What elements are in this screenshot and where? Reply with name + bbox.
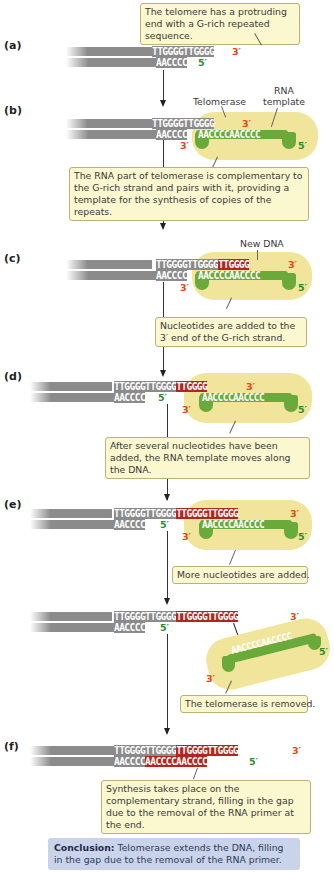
rna-right-foot-d — [284, 395, 298, 412]
dna-bottom-seq-b: AACCCC — [156, 130, 187, 139]
five-prime-d: 5′ — [158, 393, 167, 402]
rna-five-prime-removed: 5′ — [319, 647, 328, 656]
rna-right-foot-c — [282, 273, 296, 290]
panel-label-c: (c) — [4, 252, 21, 265]
three-prime-d: 3′ — [246, 382, 255, 391]
top-seq-old: TTGGGGTTGGGG — [114, 381, 176, 392]
new-dna-pointer — [257, 250, 258, 260]
three-prime-c: 3′ — [288, 260, 297, 269]
rna-seq-e: AACCCCAACCCC — [202, 520, 264, 529]
panel-label-a: (a) — [4, 39, 21, 52]
dna-bottom-strand-c — [66, 271, 156, 280]
telomerase-label: Telomerase — [193, 96, 246, 107]
top-seq-text: TTGGGGTTGGGG — [152, 118, 214, 129]
dna-bottom-strand-a — [66, 58, 156, 67]
arrowhead-icon — [160, 100, 166, 107]
bottom-seq-text: AACCCC — [114, 622, 145, 633]
dna-top-seq-removed: TTGGGGTTGGGGTTGGGGTTGGGG — [114, 612, 238, 621]
panel-label-b: (b) — [4, 104, 22, 117]
dna-top-strand-a — [66, 47, 152, 56]
dna-bottom-seq-a: AACCCC — [156, 58, 187, 67]
dna-bottom-strand-f — [30, 757, 114, 766]
rna-seq-b: AACCCCAACCCC — [198, 130, 260, 139]
conclusion-title: Conclusion: — [54, 842, 115, 853]
dna-bottom-seq-d: AACCCC — [114, 393, 145, 402]
callout-b: The RNA part of telomerase is complement… — [69, 167, 309, 221]
rna-three-prime-c: 3′ — [180, 283, 189, 292]
dna-top-seq-a: TTGGGGTTGGGG — [152, 47, 214, 56]
rna-three-prime-removed: 3′ — [206, 674, 215, 683]
dna-top-strand-c — [66, 260, 152, 269]
dna-top-strand-b — [66, 119, 152, 128]
dna-bottom-strand-d — [30, 393, 114, 402]
top-seq-old: TTGGGGTTGGGG — [156, 259, 218, 270]
callout-d: After several nucleotides have been adde… — [105, 437, 310, 479]
top-seq-new: TTGGGGTTGGGG — [176, 745, 238, 756]
arrowhead-icon — [160, 223, 166, 230]
dna-top-seq-c: TTGGGGTTGGGGTTGGGG — [156, 260, 249, 269]
rna-right-foot-e — [284, 522, 298, 539]
panel-label-f: (f) — [4, 740, 19, 753]
dna-top-strand-e — [30, 509, 112, 518]
three-prime-e: 3′ — [290, 509, 299, 518]
dna-top-strand-removed — [30, 612, 112, 621]
callout-f: Synthesis takes place on the complementa… — [101, 780, 311, 834]
rna-right-foot-b — [282, 132, 296, 149]
callout-e-pointer — [229, 550, 236, 565]
bottom-seq-text: AACCCC — [114, 392, 145, 403]
top-seq-old: TTGGGGTTGGGG — [114, 611, 176, 622]
flow-arrow-a-b — [163, 70, 164, 100]
dna-top-seq-d: TTGGGGTTGGGGTTGGGG — [114, 382, 207, 391]
bottom-seq-text: AACCCC — [114, 519, 145, 530]
arrowhead-icon — [164, 494, 170, 501]
rna-three-prime-b: 3′ — [180, 141, 189, 150]
rna-five-prime-b: 5′ — [298, 141, 307, 150]
arrowhead-icon — [164, 598, 170, 605]
conclusion-box: Conclusion: Telomerase extends the DNA, … — [48, 838, 300, 870]
dna-bottom-strand-e — [30, 520, 114, 529]
bottom-seq-text: AACCCC — [156, 57, 187, 68]
rna-seq-d: AACCCCAACCCC — [202, 393, 264, 402]
bottom-seq-text: AACCCC — [156, 129, 187, 140]
three-prime-b: 3′ — [242, 119, 251, 128]
rna-three-prime-e: 3′ — [182, 532, 191, 541]
dna-top-strand-f — [30, 746, 114, 755]
callout-e: More nucleotides are added. — [172, 566, 308, 584]
rna-five-prime-d: 5′ — [298, 405, 307, 414]
panel-label-d: (d) — [4, 370, 22, 383]
rna-template-text: RNA template — [263, 85, 305, 107]
rna-five-prime-e: 5′ — [298, 532, 307, 541]
top-seq-old: TTGGGGTTGGGG — [114, 745, 176, 756]
dna-top-seq-f: TTGGGGTTGGGGTTGGGGTTGGGG — [114, 746, 238, 755]
dna-bottom-strand-removed — [30, 623, 114, 632]
top-seq-old: TTGGGGTTGGGG — [114, 508, 176, 519]
three-prime-a: 3′ — [232, 47, 241, 56]
five-prime-e: 5′ — [160, 520, 169, 529]
bottom-seq-new: AACCCCAACCCC — [145, 756, 207, 767]
callout-f-pointer — [193, 768, 198, 780]
callout-a: The telomere has a protruding end with a… — [140, 3, 300, 45]
rna-template-label: RNA template — [258, 85, 310, 107]
flow-arrow-e-removed — [167, 531, 168, 600]
dna-bottom-seq-removed: AACCCC — [114, 623, 145, 632]
bottom-seq-text: AACCCC — [156, 270, 187, 281]
top-seq-new: TTGGGG — [176, 381, 207, 392]
dna-top-seq-e: TTGGGGTTGGGGTTGGGGTTGGGG — [114, 509, 238, 518]
top-seq-new: TTGGGGTTGGGG — [176, 611, 238, 622]
dna-top-strand-d — [30, 382, 112, 391]
top-seq-new: TTGGGG — [218, 259, 249, 270]
dna-bottom-strand-b — [66, 130, 156, 139]
dna-bottom-seq-f: AACCCCAACCCCAACCCC — [114, 757, 207, 766]
rna-seq-c: AACCCCAACCCC — [198, 271, 260, 280]
dna-bottom-seq-c: AACCCC — [156, 271, 187, 280]
top-seq-text: TTGGGGTTGGGG — [152, 46, 214, 57]
dna-bottom-seq-e: AACCCC — [114, 520, 145, 529]
top-seq-new: TTGGGGTTGGGG — [176, 508, 238, 519]
arrowhead-icon — [164, 728, 170, 735]
five-prime-a: 5′ — [198, 58, 207, 67]
rna-five-prime-c: 5′ — [298, 283, 307, 292]
rna-left-foot-removed — [222, 656, 235, 672]
new-dna-label: New DNA — [240, 238, 284, 249]
callout-removed: The telomerase is removed. — [180, 695, 308, 713]
flow-arrow-removed-f — [167, 634, 168, 730]
